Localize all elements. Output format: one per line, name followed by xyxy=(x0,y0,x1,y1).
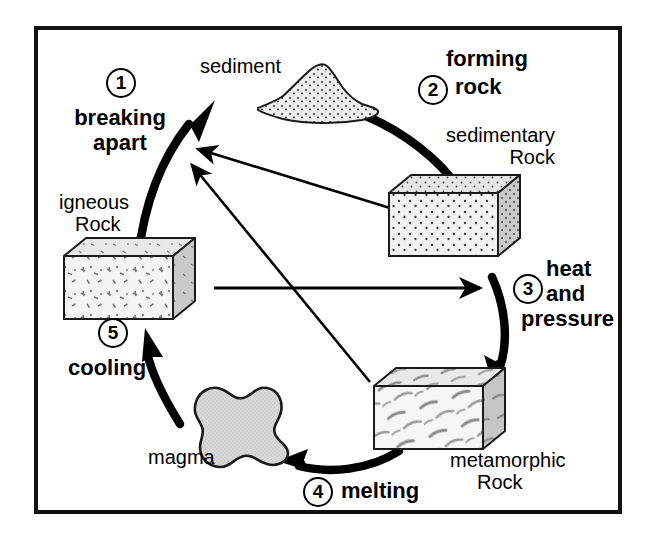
step-label-4: melting xyxy=(341,479,419,502)
step-label-2-line2: rock xyxy=(455,75,501,98)
label-igneous-rock-line1: igneous xyxy=(59,192,129,213)
label-igneous-rock-line2: Rock xyxy=(75,214,121,235)
rock-cycle-diagram: sediment 1 breaking apart 2 forming rock… xyxy=(0,0,649,544)
label-sediment: sediment xyxy=(200,56,281,77)
label-metamorphic-rock-line2: Rock xyxy=(477,472,523,493)
diagram-frame xyxy=(34,26,622,514)
step-label-3-line1: heat xyxy=(546,257,591,280)
step-label-2-line1: forming xyxy=(446,47,528,70)
step-number-4: 4 xyxy=(303,477,333,507)
step-label-1-line2: apart xyxy=(50,131,190,154)
label-magma: magma xyxy=(148,447,215,468)
step-number-3: 3 xyxy=(513,274,543,304)
step-label-3-line3: pressure xyxy=(521,307,614,330)
step-label-3-line2: and xyxy=(546,282,585,305)
step-number-2: 2 xyxy=(418,75,448,105)
label-sedimentary-rock-line1: sedimentary xyxy=(400,125,555,146)
label-metamorphic-rock-line1: metamorphic xyxy=(450,450,566,471)
step-label-5: cooling xyxy=(68,356,146,379)
step-label-1-line1: breaking xyxy=(50,106,190,129)
label-sedimentary-rock-line2: Rock xyxy=(400,147,555,168)
step-number-5: 5 xyxy=(98,318,128,348)
step-number-1: 1 xyxy=(106,68,136,98)
